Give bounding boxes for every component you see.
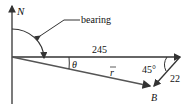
- bearing-arc: [12, 29, 44, 58]
- point-b-label: B: [151, 92, 157, 103]
- angle-45-label: 45°: [142, 64, 156, 75]
- vector-245-label: 245: [92, 44, 107, 55]
- resultant-vector: [12, 57, 150, 86]
- bearing-leader: [40, 20, 80, 36]
- theta-label: θ: [72, 59, 77, 70]
- bearing-label: bearing: [81, 14, 111, 25]
- north-label: N: [16, 5, 25, 17]
- resultant-label: r: [110, 67, 114, 78]
- vector-diagram: N bearing 245 22 r θ 45° B: [0, 0, 191, 111]
- vector-22-label: 22: [170, 73, 180, 84]
- angle-45-arc: [165, 57, 167, 71]
